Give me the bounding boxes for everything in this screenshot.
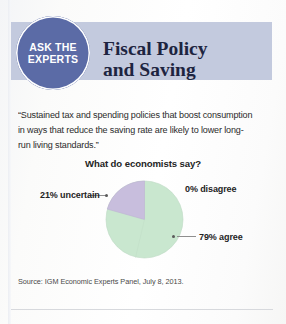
leader-dot-uncertain [105,194,108,197]
pie-label-uncertain: 21% uncertain [40,190,100,200]
pull-quote: “Sustained tax and spending policies tha… [18,107,255,153]
chart-heading: What do economists say? [0,158,286,169]
leader-line-agree [177,236,196,237]
ask-the-experts-badge: ASK THE EXPERTS [16,16,90,90]
pie-chart-svg [105,180,184,259]
leader-dot-agree [172,235,175,238]
pie-chart [105,180,184,259]
pie-label-disagree: 0% disagree [185,184,236,194]
pie-label-agree: 79% agree [199,232,243,242]
source-note: Source: IGM Economic Experts Panel, July… [18,277,183,286]
bottom-divider [11,309,273,310]
page-title: Fiscal Policy and Saving [103,38,271,80]
ask-the-experts-badge-label: ASK THE EXPERTS [28,41,78,65]
article-clipping: ASK THE EXPERTS Fiscal Policy and Saving… [0,0,286,324]
